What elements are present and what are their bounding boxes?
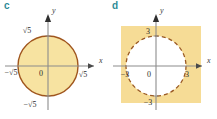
- y-axis-label-d: y: [159, 6, 164, 15]
- tick-label-top-d: 3: [146, 27, 150, 36]
- panel-c: c x y √5 −√5 −√5: [0, 0, 108, 119]
- x-axis-label-c: x: [98, 56, 103, 65]
- x-axis-label-d: x: [206, 56, 211, 65]
- origin-label-d: 0: [147, 70, 151, 79]
- origin-label-c: 0: [39, 69, 43, 78]
- tick-label-bottom-d: −3: [144, 98, 153, 107]
- tick-label-bottom-c: −√5: [24, 100, 37, 109]
- tick-label-left-d: −3: [121, 70, 130, 79]
- plot-area-d: x y 3 −3 −3 3 0: [108, 0, 216, 119]
- tick-label-right-d: 3: [185, 70, 189, 79]
- plot-svg-c: x y √5 −√5 −√5 √5 0: [0, 0, 108, 119]
- plot-area-c: x y √5 −√5 −√5 √5 0: [0, 0, 108, 119]
- shaded-region-outside-circle: [121, 26, 201, 103]
- y-axis-label-c: y: [51, 6, 56, 15]
- x-axis-arrow-icon-c: [88, 63, 94, 69]
- y-axis-arrow-icon-c: [45, 14, 51, 22]
- plot-svg-d: x y 3 −3 −3 3 0: [108, 0, 216, 119]
- tick-label-left-c: −√5: [5, 68, 18, 77]
- y-axis-arrow-icon-d: [153, 14, 159, 22]
- figure-panels-c-d: c x y √5 −√5 −√5: [0, 0, 217, 119]
- panel-d: d: [108, 0, 216, 119]
- tick-label-right-c: √5: [79, 70, 87, 79]
- tick-label-top-c: √5: [23, 26, 31, 35]
